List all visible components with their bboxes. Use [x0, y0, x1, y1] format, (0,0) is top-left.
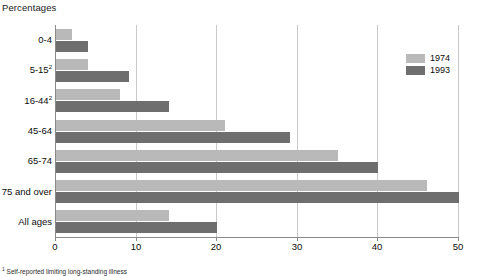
x-tick-label-40: 40 — [357, 241, 397, 252]
gridline — [297, 25, 298, 237]
x-axis-tick-labels: 01020304050 — [0, 241, 477, 255]
legend-label-1974: 1974 — [430, 53, 450, 64]
bar-45-64-1974[interactable] — [56, 120, 225, 131]
legend-swatch-1974 — [406, 54, 425, 63]
gridline — [136, 25, 137, 237]
bar-75-and-over-1993[interactable] — [56, 192, 459, 203]
footnote-text: Self-reported limiting long-standing ill… — [7, 268, 127, 275]
plot-area — [55, 25, 458, 237]
x-tick-label-10: 10 — [116, 241, 156, 252]
legend-item-1993[interactable]: 1993 — [406, 65, 470, 76]
bar-45-64-1993[interactable] — [56, 132, 290, 143]
category-label-5-15: 5-152 — [0, 64, 52, 75]
category-label-all-ages: All ages — [0, 216, 52, 227]
bar-0-4-1993[interactable] — [56, 41, 88, 52]
chart-legend: 19741993 — [406, 53, 470, 79]
x-tick-label-20: 20 — [196, 241, 236, 252]
x-tick-label-0: 0 — [35, 241, 75, 252]
bar-5-15-1993[interactable] — [56, 71, 129, 82]
bar-5-15-1974[interactable] — [56, 59, 88, 70]
bar-75-and-over-1974[interactable] — [56, 180, 427, 191]
bar-16-44-1974[interactable] — [56, 89, 120, 100]
bar-65-74-1974[interactable] — [56, 150, 338, 161]
category-footnote-marker: 2 — [49, 64, 52, 70]
category-label-65-74: 65-74 — [0, 155, 52, 166]
gridline — [216, 25, 217, 237]
legend-item-1974[interactable]: 1974 — [406, 53, 470, 64]
bar-16-44-1993[interactable] — [56, 101, 169, 112]
category-label-45-64: 45-64 — [0, 125, 52, 136]
gridline — [377, 25, 378, 237]
category-label-75-and-over: 75 and over — [0, 186, 52, 197]
category-label-16-44: 16-442 — [0, 95, 52, 106]
category-footnote-marker: 2 — [49, 95, 52, 101]
category-axis-labels: 0-45-15216-44245-6465-7475 and overAll a… — [0, 25, 52, 237]
bar-65-74-1993[interactable] — [56, 162, 378, 173]
legend-swatch-1993 — [406, 66, 425, 75]
bar-all-ages-1974[interactable] — [56, 210, 169, 221]
bar-0-4-1974[interactable] — [56, 29, 72, 40]
chart-axis-title: Percentages — [2, 2, 56, 13]
y-axis-line — [55, 25, 56, 237]
bar-all-ages-1993[interactable] — [56, 222, 217, 233]
x-tick-label-50: 50 — [438, 241, 477, 252]
footnote-marker: 1 — [2, 266, 5, 272]
chart-footnote: 1 Self-reported limiting long-standing i… — [2, 265, 127, 276]
legend-label-1993: 1993 — [430, 65, 450, 76]
x-axis-line — [55, 237, 459, 238]
x-tick-label-30: 30 — [277, 241, 317, 252]
category-label-0-4: 0-4 — [0, 34, 52, 45]
